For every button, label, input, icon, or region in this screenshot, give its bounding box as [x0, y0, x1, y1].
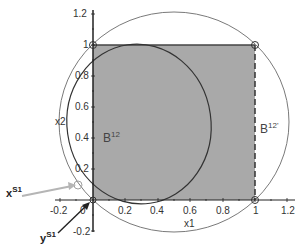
- y-tick-label: 1: [83, 39, 89, 50]
- x-tick-label: 1.2: [281, 205, 295, 216]
- xs1-label: xS1: [6, 185, 22, 199]
- y-tick-label: 1.2: [73, 8, 87, 19]
- y-tick-label: 0.6: [75, 101, 89, 112]
- y-tick-label: 0.8: [75, 70, 89, 81]
- x-tick-label: 0.2: [118, 205, 132, 216]
- x-tick-label: 0.8: [216, 205, 230, 216]
- unit-square-region: [93, 45, 255, 200]
- y-axis-label: x2: [55, 116, 66, 127]
- ys1-label: yS1: [40, 230, 56, 244]
- x-tick-label: -0.2: [50, 205, 68, 216]
- x-axis-label: x1: [184, 218, 195, 229]
- diagram-canvas: -0.2 0 0.2 0.4 0.6 0.8 1 1.2 -0.2 0.2 0.…: [0, 0, 300, 247]
- y-tick-label: 0.4: [75, 132, 89, 143]
- y-tick-label: 0.2: [75, 163, 89, 174]
- x-tick-label: 0.4: [150, 205, 164, 216]
- y-tick-label: -0.2: [73, 226, 91, 237]
- xs1-pointer-arrow: [22, 182, 76, 196]
- x-tick-label: 0.6: [183, 205, 197, 216]
- square-edge-b12prime-label: B12': [260, 121, 279, 136]
- x-tick-label: 1: [253, 205, 259, 216]
